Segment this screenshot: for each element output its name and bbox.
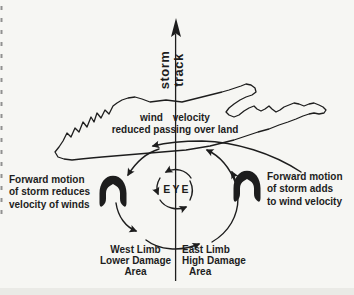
forward-motion-right-line3: to wind velocity	[267, 196, 353, 208]
storm-track-label-line1: storm	[158, 40, 172, 100]
west-limb-caption: West Limb Lower Damage Area	[99, 245, 172, 277]
forward-motion-left-line1: Forward motion	[9, 174, 105, 186]
storm-track-label-line2: track	[172, 40, 186, 100]
forward-motion-left-line2: of storm reduces	[9, 186, 105, 198]
diagram-canvas: storm track wind velocity reduced passin…	[0, 0, 354, 295]
forward-motion-left-line3: velocity of winds	[9, 199, 105, 211]
wind-velocity-caption-line1: wind velocity	[95, 112, 255, 124]
scan-shadow-band	[0, 288, 354, 295]
west-limb-line3: Area	[99, 267, 172, 278]
west-limb-line2: Lower Damage	[99, 256, 172, 267]
storm-track-label: storm track	[158, 40, 186, 100]
forward-motion-right-line2: of storm adds	[267, 183, 353, 195]
wind-velocity-caption-line2: reduced passing over land	[95, 124, 255, 136]
east-limb-line3: Area	[182, 267, 254, 278]
forward-motion-left-caption: Forward motion of storm reduces velocity…	[9, 174, 105, 211]
wind-velocity-caption: wind velocity reduced passing over land	[95, 112, 255, 136]
forward-motion-right-caption: Forward motion of storm adds to wind vel…	[267, 171, 353, 208]
forward-motion-right-line1: Forward motion	[267, 171, 353, 183]
east-limb-line2: High Damage	[182, 256, 254, 267]
east-limb-caption: East Limb High Damage Area	[182, 245, 254, 277]
forward-motion-symbol-right	[234, 171, 261, 202]
eye-label: EYE	[159, 183, 195, 195]
